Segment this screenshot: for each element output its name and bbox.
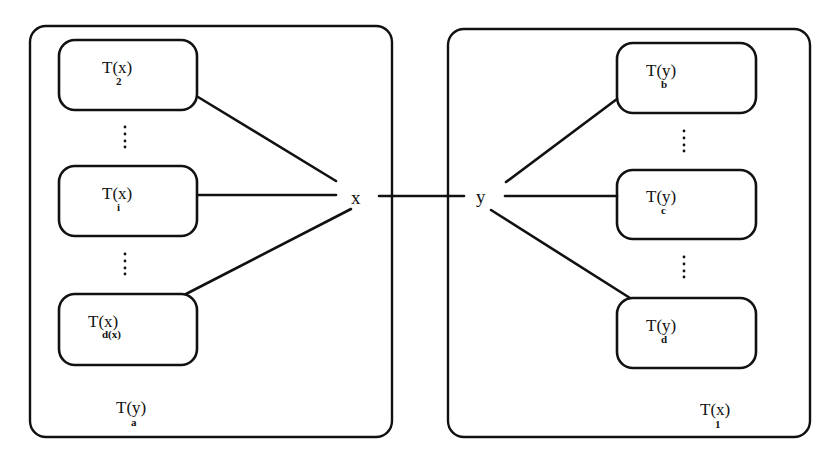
ellipsis-left-upper [124, 126, 127, 149]
edge-x-tx2 [198, 97, 336, 181]
edge-y-tyd [491, 210, 630, 298]
subtree-label-tx-i: T(x) i [102, 185, 132, 202]
container-label-ty-a: T(y) a [116, 399, 146, 416]
subtree-label-ty-c: T(y) c [646, 188, 676, 205]
node-x-label: x [351, 188, 361, 207]
edge-y-tyb [506, 99, 617, 182]
subtree-label-tx-dx: T(x) d(x) [88, 313, 118, 330]
edge-x-txdx [186, 209, 351, 294]
subtree-box-tx-dx [59, 294, 197, 365]
node-y-label: y [476, 187, 486, 206]
subtree-label-ty-d: T(y) d [646, 317, 676, 334]
ellipsis-right-lower [683, 256, 686, 279]
subtree-label-tx-2: T(x) 2 [102, 59, 132, 76]
subtree-box-ty-b [617, 43, 756, 113]
subtree-label-ty-b: T(y) b [646, 62, 676, 79]
ellipsis-right-upper [683, 130, 686, 153]
subtree-box-ty-d [617, 298, 756, 368]
subtree-box-ty-c [617, 170, 756, 239]
container-label-tx-1: T(x) 1 [700, 401, 730, 418]
ellipsis-left-lower [124, 253, 127, 276]
